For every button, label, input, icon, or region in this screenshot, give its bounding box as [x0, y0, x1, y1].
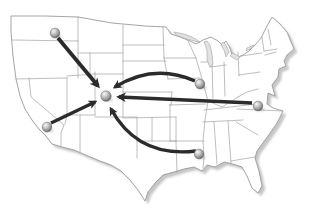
us-outline — [11, 16, 294, 201]
us-map-figure — [0, 0, 315, 211]
us-map-svg — [0, 0, 315, 211]
mid-atlantic-marker-ball — [253, 101, 263, 111]
south-central-marker-ball — [194, 149, 204, 159]
southern-california-marker-ball — [42, 122, 52, 132]
hub-marker-ball — [101, 91, 111, 101]
us-landmass — [11, 16, 294, 201]
midwest-marker-ball — [195, 79, 205, 89]
pacific-northwest-marker-ball — [50, 28, 60, 38]
